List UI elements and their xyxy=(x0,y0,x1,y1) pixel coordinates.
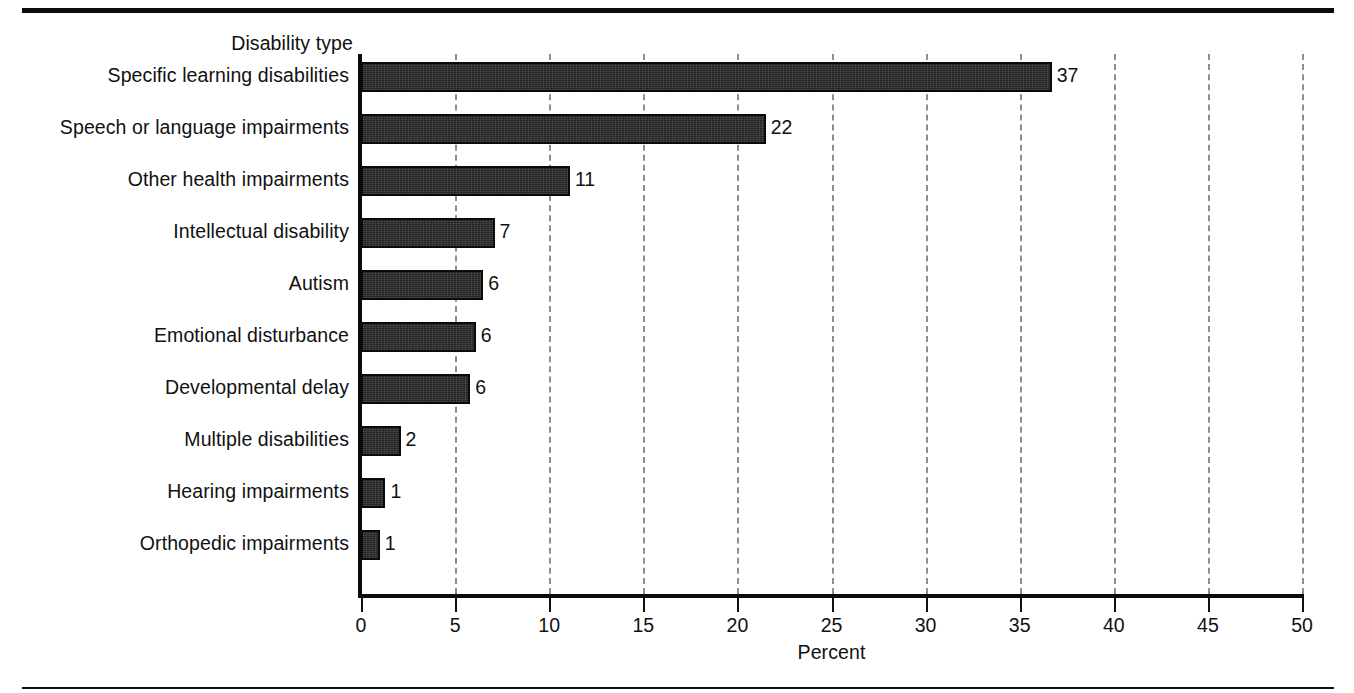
category-label: Developmental delay xyxy=(0,376,349,399)
category-label: Speech or language impairments xyxy=(0,116,349,139)
bar-row: Orthopedic impairments1 xyxy=(0,530,1354,560)
bar xyxy=(361,530,380,560)
category-label: Intellectual disability xyxy=(0,220,349,243)
category-label: Emotional disturbance xyxy=(0,324,349,347)
bar-row: Emotional disturbance6 xyxy=(0,322,1354,352)
bar xyxy=(361,374,470,404)
bar-value-label: 6 xyxy=(475,376,486,399)
bar-row: Autism6 xyxy=(0,270,1354,300)
x-tick-15 xyxy=(643,598,645,612)
bar-value-label: 1 xyxy=(385,532,396,555)
x-tick-label-40: 40 xyxy=(1084,614,1144,637)
bar-row: Other health impairments11 xyxy=(0,166,1354,196)
plot-area: Disability type Specific learning disabi… xyxy=(0,0,1354,693)
category-label: Specific learning disabilities xyxy=(0,64,349,87)
x-tick-20 xyxy=(737,598,739,612)
bar xyxy=(361,478,385,508)
bar-value-label: 2 xyxy=(406,428,417,451)
category-label: Hearing impairments xyxy=(0,480,349,503)
bars: Specific learning disabilities37Speech o… xyxy=(0,0,1354,693)
x-tick-label-5: 5 xyxy=(425,614,485,637)
category-label: Autism xyxy=(0,272,349,295)
x-tick-10 xyxy=(549,598,551,612)
bar-value-label: 1 xyxy=(390,480,401,503)
bar-row: Developmental delay6 xyxy=(0,374,1354,404)
x-tick-label-30: 30 xyxy=(896,614,956,637)
x-tick-0 xyxy=(361,598,363,612)
category-label: Orthopedic impairments xyxy=(0,532,349,555)
bar xyxy=(361,322,476,352)
bar xyxy=(361,114,766,144)
bar-value-label: 7 xyxy=(500,220,511,243)
bar-row: Specific learning disabilities37 xyxy=(0,62,1354,92)
bar-row: Hearing impairments1 xyxy=(0,478,1354,508)
bar xyxy=(361,218,495,248)
x-tick-label-50: 50 xyxy=(1272,614,1332,637)
x-tick-40 xyxy=(1114,598,1116,612)
x-tick-label-35: 35 xyxy=(990,614,1050,637)
category-label: Multiple disabilities xyxy=(0,428,349,451)
x-tick-35 xyxy=(1020,598,1022,612)
x-tick-45 xyxy=(1208,598,1210,612)
category-label: Other health impairments xyxy=(0,168,349,191)
bar-value-label: 6 xyxy=(488,272,499,295)
x-tick-label-45: 45 xyxy=(1178,614,1238,637)
x-tick-label-0: 0 xyxy=(331,614,391,637)
x-tick-50 xyxy=(1302,598,1304,612)
x-tick-5 xyxy=(455,598,457,612)
bar-value-label: 22 xyxy=(771,116,793,139)
x-tick-label-25: 25 xyxy=(802,614,862,637)
x-tick-label-20: 20 xyxy=(707,614,767,637)
x-tick-label-10: 10 xyxy=(519,614,579,637)
x-axis-title: Percent xyxy=(361,641,1302,664)
bar-value-label: 6 xyxy=(481,324,492,347)
bar xyxy=(361,166,570,196)
bar-row: Multiple disabilities2 xyxy=(0,426,1354,456)
bar xyxy=(361,62,1052,92)
x-tick-25 xyxy=(832,598,834,612)
x-tick-30 xyxy=(926,598,928,612)
bar-row: Intellectual disability7 xyxy=(0,218,1354,248)
bar-row: Speech or language impairments22 xyxy=(0,114,1354,144)
bar xyxy=(361,426,401,456)
bar-value-label: 11 xyxy=(575,168,595,191)
bar-value-label: 37 xyxy=(1057,64,1079,87)
figure-bar-chart: Disability type Specific learning disabi… xyxy=(0,0,1354,693)
bar xyxy=(361,270,483,300)
x-tick-label-15: 15 xyxy=(613,614,673,637)
